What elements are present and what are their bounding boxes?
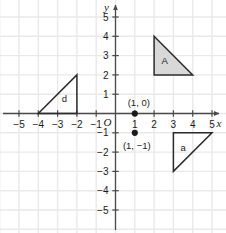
plotted-point-label: (1, −1) <box>123 140 151 151</box>
triangle-label-d: d <box>62 93 67 104</box>
y-axis-tick-label: −1 <box>97 127 109 138</box>
y-axis-tick-label: 2 <box>103 70 109 81</box>
x-axis-tick-label: 2 <box>151 119 157 130</box>
x-axis-tick-label: 5 <box>209 119 215 130</box>
y-axis-tick-label: −5 <box>97 205 109 216</box>
x-axis-tick-label: 3 <box>171 119 177 130</box>
y-axis-label: y <box>103 1 109 13</box>
triangle-label-a: a <box>180 142 186 153</box>
plotted-shapes: Aad <box>38 36 212 171</box>
y-axis-tick-label: −4 <box>97 185 109 196</box>
y-axis-tick-label: 3 <box>103 50 109 61</box>
triangle-label-A: A <box>162 55 169 66</box>
y-axis-tick-label: 1 <box>103 89 109 100</box>
coordinate-plane-svg: −5−4−3−2−11234554321−1−2−3−4−5 Aad (1, 0… <box>0 0 226 233</box>
x-axis-tick-label: −4 <box>33 119 45 130</box>
x-axis-label: x <box>216 117 222 129</box>
plotted-point-label: (1, 0) <box>128 97 150 108</box>
x-axis-tick-label: −5 <box>13 119 25 130</box>
plotted-point <box>132 130 138 136</box>
y-axis-tick-label: −2 <box>97 147 109 158</box>
origin-label: O <box>104 116 112 128</box>
x-axis-tick-label: 1 <box>132 119 138 130</box>
y-axis-tick-label: −3 <box>97 166 109 177</box>
coordinate-plane-diagram: −5−4−3−2−11234554321−1−2−3−4−5 Aad (1, 0… <box>0 0 226 233</box>
y-axis-tick-label: 4 <box>103 31 109 42</box>
x-axis-tick-label: −3 <box>52 119 64 130</box>
x-axis-tick-label: 4 <box>190 119 196 130</box>
y-axis-tick-label: 5 <box>103 12 109 23</box>
plotted-point <box>132 110 138 116</box>
x-axis-tick-label: −2 <box>71 119 83 130</box>
